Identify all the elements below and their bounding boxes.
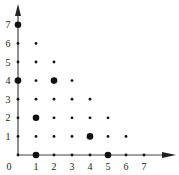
small-point: [35, 42, 38, 45]
x-axis-arrow-icon: [162, 152, 176, 158]
small-point: [107, 116, 110, 119]
x-tick-label: 3: [70, 161, 75, 172]
small-point: [17, 42, 20, 45]
large-point: [15, 22, 22, 29]
lattice-plot: 01234567 1234567: [0, 0, 179, 175]
x-tick-label: 6: [124, 161, 129, 172]
data-points: [15, 22, 146, 159]
small-point: [125, 154, 128, 157]
axes: [15, 4, 176, 158]
small-point: [71, 79, 74, 82]
small-point: [35, 135, 38, 138]
small-point: [143, 154, 146, 157]
small-point: [17, 98, 20, 101]
small-point: [53, 135, 56, 138]
y-tick-label: 6: [6, 38, 11, 49]
small-point: [125, 135, 128, 138]
small-point: [53, 98, 56, 101]
small-point: [89, 98, 92, 101]
y-tick-label: 2: [6, 112, 11, 123]
small-point: [53, 116, 56, 119]
y-tick-label: 3: [6, 94, 11, 105]
small-point: [89, 116, 92, 119]
small-point: [71, 116, 74, 119]
y-axis-arrow-icon: [15, 4, 21, 16]
small-point: [35, 79, 38, 82]
x-tick-label: 1: [34, 161, 39, 172]
x-tick-label: 5: [106, 161, 111, 172]
large-point: [51, 77, 58, 84]
x-tick-labels: 01234567: [7, 161, 147, 172]
small-point: [71, 154, 74, 157]
large-point: [33, 115, 40, 122]
large-point: [15, 77, 22, 84]
small-point: [71, 135, 74, 138]
small-point: [53, 154, 56, 157]
small-point: [107, 135, 110, 138]
y-tick-labels: 1234567: [6, 19, 11, 142]
small-point: [71, 98, 74, 101]
large-point: [87, 133, 94, 140]
small-point: [17, 135, 20, 138]
small-point: [89, 154, 92, 157]
y-tick-label: 4: [6, 75, 11, 86]
small-point: [17, 154, 20, 157]
large-point: [105, 152, 112, 159]
small-point: [53, 61, 56, 64]
y-tick-label: 7: [6, 19, 11, 30]
x-tick-label: 7: [142, 161, 147, 172]
small-point: [35, 98, 38, 101]
x-tick-label: 4: [88, 161, 93, 172]
small-point: [17, 61, 20, 64]
large-point: [33, 152, 40, 159]
x-tick-label: 0: [7, 161, 12, 172]
y-tick-label: 1: [6, 131, 11, 142]
small-point: [35, 61, 38, 64]
small-point: [17, 116, 20, 119]
x-tick-label: 2: [52, 161, 57, 172]
y-tick-label: 5: [6, 57, 11, 68]
